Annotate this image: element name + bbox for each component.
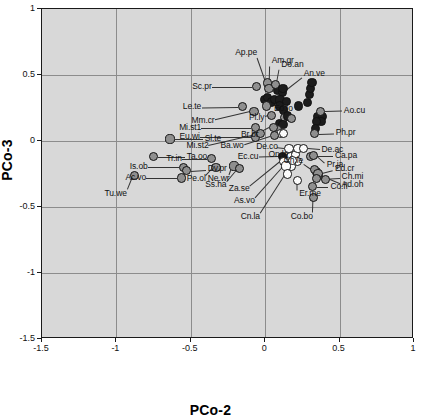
point-label-Br.br: Br.br: [233, 130, 259, 139]
point-label-Ch.le: Ch.le: [277, 156, 303, 165]
data-point: [279, 129, 288, 138]
point-label-Ec.cu: Ec.cu: [233, 152, 259, 161]
point-label-Er.me: Er.me: [299, 189, 325, 198]
data-point-Ba.wo: [270, 131, 279, 140]
y-tick-label: 1: [1, 3, 35, 13]
point-label-Tu.we: Tu.we: [101, 189, 127, 198]
x-tick-label: 0.5: [319, 343, 359, 353]
point-label-Mi.st2: Mi.st2: [178, 141, 209, 150]
data-point: [287, 114, 296, 123]
point-label-Pl.ly: Pl.ly: [238, 113, 264, 122]
x-tick-mark: [190, 338, 191, 342]
data-point-An.ve: [278, 84, 287, 93]
point-label-Ao.cu: Ao.cu: [344, 106, 370, 115]
point-label-Cn.la: Cn.la: [234, 212, 260, 221]
leader-line: [201, 107, 237, 109]
leader-line: [286, 77, 302, 89]
point-label-An.ve: An.ve: [304, 69, 330, 78]
gridline-vertical: [340, 9, 341, 337]
data-point-Ss.ha: [235, 164, 244, 173]
leader-line: [308, 148, 320, 150]
gridline-horizontal: [42, 207, 412, 208]
data-point-Pr.ja: [309, 151, 318, 160]
leader-line: [212, 87, 252, 88]
gridline-vertical: [116, 9, 117, 337]
point-label-Ph.pr: Ph.pr: [336, 128, 362, 137]
y-tick-mark: [37, 74, 41, 75]
point-label-Za.se: Za.se: [224, 184, 250, 193]
y-tick-mark: [37, 8, 41, 9]
y-tick-mark: [37, 206, 41, 207]
x-tick-label: -0.5: [170, 343, 210, 353]
data-point-De.ac: [299, 144, 308, 153]
y-tick-mark: [37, 338, 41, 339]
leader-line: [191, 170, 206, 172]
leader-line: [322, 171, 333, 175]
data-point-Er.me: [293, 176, 302, 185]
x-tick-label: 0: [244, 343, 284, 353]
point-label-Ca.pa: Ca.pa: [335, 151, 361, 160]
data-point-Ao.cu: [316, 107, 325, 116]
x-tick-label: -1.5: [21, 343, 61, 353]
point-label-Ba.wo: Ba.wo: [218, 141, 244, 150]
pcoa-scatter-figure: Sl.teTa.ooIs.obAc.voTu.weDv.prTr.inPe.ol…: [0, 0, 421, 419]
point-label-Co.fl: Co.fl: [330, 182, 356, 191]
point-label-Sc.pr: Sc.pr: [186, 82, 212, 91]
leader-line: [317, 187, 328, 188]
point-label-Mi.st1: Mi.st1: [171, 123, 202, 132]
point-label-Ta.oo: Ta.oo: [187, 152, 213, 161]
leader-line: [319, 133, 334, 135]
x-tick-mark: [339, 338, 340, 342]
leader-line: [148, 167, 179, 168]
y-tick-label: -1: [1, 267, 35, 277]
point-label-De.co: De.co: [252, 142, 278, 151]
x-tick-mark: [115, 338, 116, 342]
y-tick-label: 0.5: [1, 69, 35, 79]
data-point-Le.te: [238, 102, 247, 111]
y-axis-label: PCo-3: [0, 130, 15, 190]
x-tick-label: 1: [393, 343, 421, 353]
plot-area: Sl.teTa.ooIs.obAc.voTu.weDv.prTr.inPe.ol…: [41, 8, 413, 338]
x-tick-mark: [41, 338, 42, 342]
point-label-Tr.in: Tr.in: [156, 154, 182, 163]
point-label-As.vo: As.vo: [229, 196, 255, 205]
point-label-Le.te: Le.te: [175, 102, 201, 111]
point-label-Dv.pr: Dv.pr: [208, 164, 234, 173]
data-point: [307, 78, 316, 87]
leader-line: [146, 178, 177, 179]
data-point-Ph.pr: [310, 129, 319, 138]
y-tick-label: -0.5: [1, 201, 35, 211]
data-point-Eo.lo: [262, 101, 271, 110]
x-tick-mark: [264, 338, 265, 342]
point-label-Ap.pe: Ap.pe: [231, 48, 257, 57]
y-tick-mark: [37, 272, 41, 273]
point-label-Eo.lo: Eo.lo: [274, 104, 300, 113]
x-axis-label: PCo-2: [0, 402, 421, 418]
data-point-Ad.oh: [321, 175, 330, 184]
y-tick-label: -1.5: [1, 333, 35, 343]
data-point: [303, 98, 312, 107]
point-label-Co.bo: Co.bo: [287, 212, 313, 221]
x-tick-label: -1: [95, 343, 135, 353]
point-label-Is.ob: Is.ob: [122, 162, 148, 171]
gridline-horizontal: [42, 75, 412, 76]
data-point-Sc.pr: [252, 82, 261, 91]
x-tick-mark: [413, 338, 414, 342]
point-label-Do.an: Do.an: [281, 60, 307, 69]
y-tick-mark: [37, 140, 41, 141]
point-label-Ac.vo: Ac.vo: [120, 173, 146, 182]
gridline-horizontal: [42, 273, 412, 274]
data-point-Cn.la: [283, 169, 292, 178]
